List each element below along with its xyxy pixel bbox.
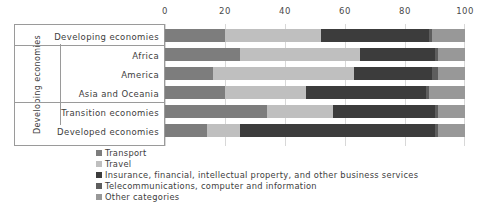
legend-item-label: Other categories (105, 192, 180, 202)
category-label-row: America (15, 65, 164, 84)
legend-item-label: Insurance, financial, intellectual prope… (105, 170, 418, 180)
category-label-text: Asia and Oceania (79, 89, 159, 99)
x-axis: 020406080100 (165, 6, 465, 20)
bar-segment (240, 48, 360, 61)
bar-segment (240, 124, 435, 137)
legend-item[interactable]: Telecommunications, computer and informa… (96, 180, 476, 191)
category-label-row: Transition economies (15, 103, 164, 122)
bar-segment (165, 105, 267, 118)
legend-swatch-icon (96, 172, 102, 178)
legend-item[interactable]: Transport (96, 147, 476, 158)
legend-item-label: Telecommunications, computer and informa… (105, 181, 317, 191)
bar-row (165, 67, 465, 80)
bar-segment (213, 67, 354, 80)
bar-segment (165, 124, 207, 137)
bar-segment (207, 124, 240, 137)
legend-item[interactable]: Other categories (96, 191, 476, 202)
bar-segment (333, 105, 435, 118)
bar-segment (429, 86, 465, 99)
chart-legend: TransportTravelInsurance, financial, int… (96, 147, 476, 202)
bar-segment (267, 105, 333, 118)
bar-segment (306, 86, 426, 99)
category-label-text: Africa (132, 51, 159, 61)
legend-item-label: Transport (105, 148, 147, 158)
label-group-divider (15, 45, 164, 46)
bar-segment (165, 67, 213, 80)
category-label-table: Developing economies Developing economie… (14, 24, 165, 146)
x-axis-tick-40: 40 (279, 6, 291, 16)
legend-item-label: Travel (105, 159, 131, 169)
plot-area (165, 24, 465, 146)
x-axis-tick-60: 60 (339, 6, 351, 16)
x-axis-tick-20: 20 (219, 6, 231, 16)
legend-item[interactable]: Travel (96, 158, 476, 169)
legend-item[interactable]: Insurance, financial, intellectual prope… (96, 169, 476, 180)
bar-row (165, 105, 465, 118)
legend-swatch-icon (96, 183, 102, 189)
bar-segment (225, 29, 321, 42)
legend-swatch-icon (96, 161, 102, 167)
bar-row (165, 86, 465, 99)
category-label-row: Developing economies (15, 27, 164, 46)
category-label-text: Developing economies (54, 32, 159, 42)
bar-segment (360, 48, 435, 61)
category-label-row: Asia and Oceania (15, 84, 164, 103)
category-label-text: Developed economies (57, 127, 159, 137)
bar-segment (438, 67, 465, 80)
category-label-row: Africa (15, 46, 164, 65)
legend-swatch-icon (96, 150, 102, 156)
label-group-divider (15, 102, 164, 103)
bar-segment (165, 48, 240, 61)
bar-segment (165, 86, 225, 99)
x-axis-tick-80: 80 (399, 6, 411, 16)
bar-segment (165, 29, 225, 42)
legend-swatch-icon (96, 194, 102, 200)
x-axis-tick-100: 100 (456, 6, 474, 16)
bar-row (165, 29, 465, 42)
bar-row (165, 124, 465, 137)
bar-segment (438, 48, 465, 61)
category-label-text: America (121, 70, 159, 80)
bar-row (165, 48, 465, 61)
bar-segment (432, 29, 465, 42)
category-label-text: Transition economies (61, 108, 159, 118)
bar-segment (354, 67, 432, 80)
x-axis-tick-0: 0 (162, 6, 168, 16)
bar-segment (321, 29, 429, 42)
bar-segment (438, 124, 465, 137)
chart-root: 020406080100 Developing economies Develo… (0, 0, 485, 208)
bar-segment (225, 86, 306, 99)
bar-segment (438, 105, 465, 118)
category-label-row: Developed economies (15, 122, 164, 141)
